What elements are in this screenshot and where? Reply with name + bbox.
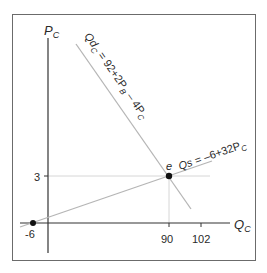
supply-intercept-point xyxy=(30,220,36,226)
x-tick-label-90: 90 xyxy=(161,233,173,245)
equilibrium-label: e xyxy=(166,160,172,172)
x-tick-label-102: 102 xyxy=(192,233,210,245)
demand-equation-label: QdC = 92+2PB – 4PC xyxy=(80,30,151,122)
y-axis-label: PC xyxy=(44,23,60,40)
supply-equation-label: Qs = –6+32PC xyxy=(177,137,249,174)
y-tick-label-3: 3 xyxy=(34,171,40,183)
equilibrium-point xyxy=(166,173,172,179)
svg-text:Qs = –6+32PC: Qs = –6+32PC xyxy=(177,137,249,174)
demand-curve xyxy=(76,44,191,209)
x-axis-label: QC xyxy=(234,217,251,234)
svg-text:QdC = 92+2PB – 4PC: QdC = 92+2PB – 4PC xyxy=(80,30,151,122)
supply-demand-diagram: PC QC 3 -6 90 102 e QdC = 92+2PB – 4PC Q… xyxy=(0,0,267,273)
x-tick-label-neg6: -6 xyxy=(25,228,35,240)
